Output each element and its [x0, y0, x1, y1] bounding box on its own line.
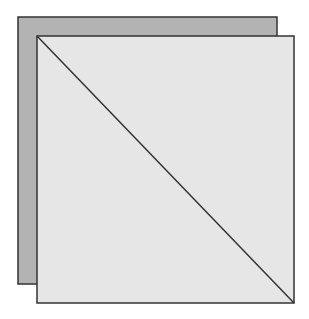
two-squares-diagram [0, 0, 309, 319]
